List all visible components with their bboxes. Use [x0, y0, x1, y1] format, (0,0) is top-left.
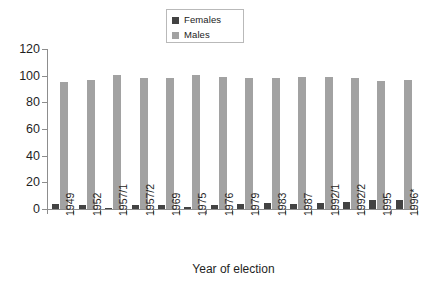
bar-males-1987 [298, 77, 306, 209]
bar-females-1975 [184, 207, 191, 209]
bar-females-19572 [132, 205, 139, 209]
y-tick-label: 40 [2, 150, 40, 162]
x-category-label: 1987 [303, 193, 315, 216]
y-tick-label: 80 [2, 96, 40, 108]
x-category-label: 1996* [409, 189, 421, 216]
bar-females-19922 [343, 202, 350, 209]
bar-females-1995 [369, 200, 376, 209]
y-tick-label: 60 [2, 123, 40, 135]
y-tick-label: 0 [2, 203, 40, 215]
bar-females-1949 [52, 204, 59, 209]
bar-chart: Females Males 020406080100120 1949195219… [0, 0, 427, 286]
y-tick-label: 20 [2, 176, 40, 188]
legend-swatch-males [172, 32, 179, 39]
bar-females-1983 [264, 203, 271, 209]
bar-males-1976 [219, 77, 227, 209]
chart-legend: Females Males [166, 9, 244, 43]
legend-swatch-females [172, 17, 179, 24]
bar-females-1979 [237, 204, 244, 209]
bar-males-1952 [87, 80, 95, 209]
x-category-label: 1949 [65, 193, 77, 216]
bar-females-19571 [105, 208, 112, 209]
bar-females-1969 [158, 205, 165, 209]
bar-males-1995 [377, 81, 385, 209]
x-category-label: 1995 [382, 193, 394, 216]
bar-males-1949 [60, 82, 68, 209]
x-category-label: 1957/2 [145, 184, 157, 216]
legend-label-males: Males [184, 30, 210, 40]
bar-females-1976 [211, 205, 218, 209]
x-category-label: 1992/1 [330, 184, 342, 216]
x-category-label: 1979 [250, 193, 262, 216]
y-tick-label: 100 [2, 70, 40, 82]
x-category-label: 1957/1 [118, 184, 130, 216]
bar-females-1996 [396, 200, 403, 209]
x-tick-mark [47, 210, 48, 214]
legend-item-females: Females [172, 13, 239, 27]
x-category-label: 1992/2 [356, 184, 368, 216]
legend-label-females: Females [184, 15, 221, 25]
x-category-label: 1983 [277, 193, 289, 216]
bar-females-19921 [317, 203, 324, 209]
x-category-label: 1952 [92, 193, 104, 216]
bar-males-1975 [192, 75, 200, 209]
x-category-label: 1976 [224, 193, 236, 216]
bar-females-1987 [290, 204, 297, 209]
x-category-label: 1969 [171, 193, 183, 216]
bar-males-1969 [166, 78, 174, 209]
bar-females-1952 [79, 205, 86, 209]
y-tick-label: 120 [2, 43, 40, 55]
legend-item-males: Males [172, 28, 239, 42]
bar-males-1979 [245, 78, 253, 209]
x-category-label: 1975 [197, 193, 209, 216]
x-axis-title: Year of election [0, 262, 427, 276]
x-axis-title-text: Year of election [192, 262, 274, 276]
bar-males-1983 [272, 78, 280, 209]
